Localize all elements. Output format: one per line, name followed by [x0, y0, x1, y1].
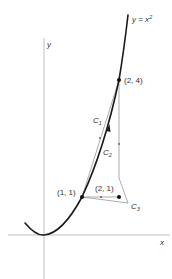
path-c3-arrow-marker-high — [118, 143, 120, 145]
point-label-2-1: (2, 1) — [95, 184, 114, 193]
point-label-1-1: (1, 1) — [57, 188, 76, 197]
path-label-c3: C3 — [131, 202, 141, 212]
diagram-canvas: x y (2, 4) (1, 1) (2, 1) y = x2 C1 C2 C3 — [0, 0, 172, 279]
x-axis-label: x — [159, 238, 165, 247]
curve-label: y = x2 — [131, 14, 152, 24]
path-label-c2: C2 — [103, 148, 112, 158]
y-axis-label: y — [46, 40, 52, 49]
path-c1-arrow-marker — [99, 137, 101, 139]
point-1-1 — [80, 195, 84, 199]
point-label-2-4: (2, 4) — [124, 76, 143, 85]
point-2-1 — [117, 195, 121, 199]
point-2-4 — [117, 78, 121, 82]
parabola-curve — [25, 15, 128, 235]
path-c3-arrow-marker-low — [100, 196, 102, 198]
path-label-c1: C1 — [93, 116, 102, 126]
